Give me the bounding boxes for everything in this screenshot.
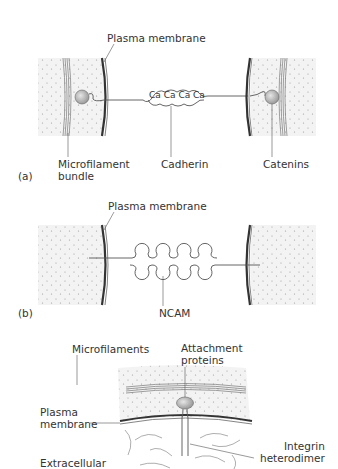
microfilament-bundle-label-line1: Microfilament (58, 158, 130, 170)
calcium-ion: Ca (178, 90, 190, 100)
catenins-label: Catenins (263, 158, 309, 170)
panel-b-tag: (b) (18, 307, 33, 319)
microfilament-bundle-label-line2: bundle (58, 170, 94, 182)
catenin-right (265, 90, 279, 104)
left-cell-cytoplasm (38, 58, 105, 136)
extracellular-matrix-fibers (125, 430, 240, 469)
plasma-membrane-label-c-line2: membrane (40, 418, 97, 430)
plasma-membrane-label-c-line1: Plasma (40, 406, 78, 418)
panel-a-art (38, 44, 316, 157)
calcium-ions: Ca Ca Ca Ca (149, 90, 205, 100)
calcium-ion: Ca (149, 90, 161, 100)
cell-adhesion-diagram (0, 0, 338, 469)
attachment-protein (177, 397, 194, 409)
plasma-membrane-label-b: Plasma membrane (108, 200, 207, 212)
panel-c-art (77, 355, 254, 469)
attachment-proteins-label-line1: Attachment (181, 342, 243, 354)
integrin-label-line2: heterodimer (260, 452, 325, 464)
panel-b-art (38, 212, 316, 306)
panel-a-tag: (a) (18, 170, 33, 182)
attachment-proteins-label-line2: proteins (181, 354, 224, 366)
plasma-membrane-label-a: Plasma membrane (107, 32, 206, 44)
ncam-label: NCAM (159, 307, 190, 319)
integrin-label-line1: Integrin (284, 440, 325, 452)
microfilaments-label: Microfilaments (72, 343, 149, 355)
ncam-molecules (89, 243, 260, 279)
calcium-ion: Ca (164, 90, 176, 100)
extracellular-label: Extracellular (40, 457, 106, 469)
cadherin-label: Cadherin (161, 158, 208, 170)
catenin-left (75, 90, 89, 104)
calcium-ion: Ca (193, 90, 205, 100)
right-plasma-membrane (247, 58, 251, 136)
